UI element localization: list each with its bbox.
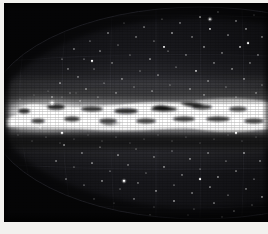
page-margin-top [0,0,268,3]
page-margin-left [0,0,4,234]
astronomical-plate [4,3,268,222]
sky-image [4,3,268,222]
foreground-dust-band [4,133,268,149]
band-bright-lobe-mid [110,102,198,128]
figure-root [0,0,268,234]
upper-dust-band [4,89,268,101]
figure-caption [6,222,264,234]
